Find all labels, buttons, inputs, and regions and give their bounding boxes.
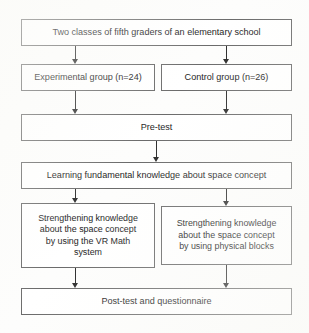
arrow-shaft-icon: [226, 189, 227, 201]
flow-node-posttest-label: Post-test and questionnaire: [101, 296, 211, 308]
arrow-head-down-icon: [72, 109, 78, 114]
arrow-head-down-icon: [72, 283, 78, 288]
flow-node-posttest: Post-test and questionnaire: [21, 288, 292, 315]
flow-node-vr-treatment-label: Strengthening knowledge about the space …: [38, 213, 138, 259]
arrow-head-down-icon: [223, 109, 229, 114]
flow-node-population: Two classes of fifth graders of an eleme…: [21, 19, 292, 46]
flow-node-control-group-label: Control group (n=26): [185, 72, 269, 84]
arrow-shaft-icon: [226, 46, 227, 59]
flow-node-experimental-group-label: Experimental group (n=24): [34, 72, 141, 84]
arrow-shaft-icon: [156, 141, 157, 157]
arrow-shaft-icon: [75, 189, 76, 198]
arrow-head-down-icon: [72, 59, 78, 64]
arrow-head-down-icon: [153, 157, 159, 162]
flow-node-population-label: Two classes of fifth graders of an eleme…: [52, 27, 260, 39]
arrow-shaft-icon: [226, 265, 227, 283]
flow-node-learning-label: Learning fundamental knowledge about spa…: [47, 170, 266, 182]
arrow-head-down-icon: [223, 59, 229, 64]
flow-node-pretest-label: Pre-test: [141, 122, 173, 134]
arrow-head-down-icon: [223, 283, 229, 288]
flow-node-learning: Learning fundamental knowledge about spa…: [21, 162, 292, 189]
arrow-shaft-icon: [75, 268, 76, 283]
arrow-head-down-icon: [72, 198, 78, 203]
flow-node-experimental-group: Experimental group (n=24): [21, 64, 155, 91]
arrow-shaft-icon: [75, 46, 76, 59]
research-design-flowchart: Two classes of fifth graders of an eleme…: [0, 0, 309, 333]
flow-node-blocks-treatment-label: Strengthening knowledge about the space …: [177, 218, 277, 252]
flow-node-control-group: Control group (n=26): [161, 64, 292, 91]
flow-node-vr-treatment: Strengthening knowledge about the space …: [21, 203, 155, 268]
flow-node-blocks-treatment: Strengthening knowledge about the space …: [161, 206, 292, 265]
arrow-shaft-icon: [226, 91, 227, 109]
arrow-shaft-icon: [75, 91, 76, 109]
flow-node-pretest: Pre-test: [21, 114, 292, 141]
arrow-head-down-icon: [223, 201, 229, 206]
